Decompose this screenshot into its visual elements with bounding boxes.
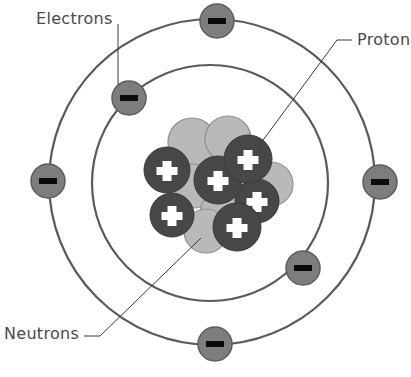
proton — [144, 147, 190, 193]
atom-diagram: Electrons Proton Neutrons — [0, 0, 411, 377]
proton-label: Proton — [357, 32, 410, 48]
minus-icon — [39, 178, 57, 184]
electron — [31, 164, 65, 198]
electron — [286, 251, 320, 285]
proton-leader-line — [258, 40, 352, 147]
electrons-label: Electrons — [36, 11, 113, 27]
proton — [224, 135, 272, 183]
proton — [213, 203, 261, 251]
minus-icon — [294, 265, 312, 271]
minus-icon — [208, 18, 226, 24]
electron — [200, 4, 234, 38]
minus-icon — [371, 179, 389, 185]
minus-icon — [120, 95, 138, 101]
neutrons-label: Neutrons — [4, 326, 79, 342]
electron — [363, 165, 397, 199]
neutrons-leader-line — [84, 238, 201, 336]
atom-illustration — [0, 0, 411, 377]
proton — [150, 193, 194, 237]
electron — [198, 327, 232, 361]
electron — [112, 81, 146, 115]
minus-icon — [206, 341, 224, 347]
nucleus — [144, 116, 293, 253]
